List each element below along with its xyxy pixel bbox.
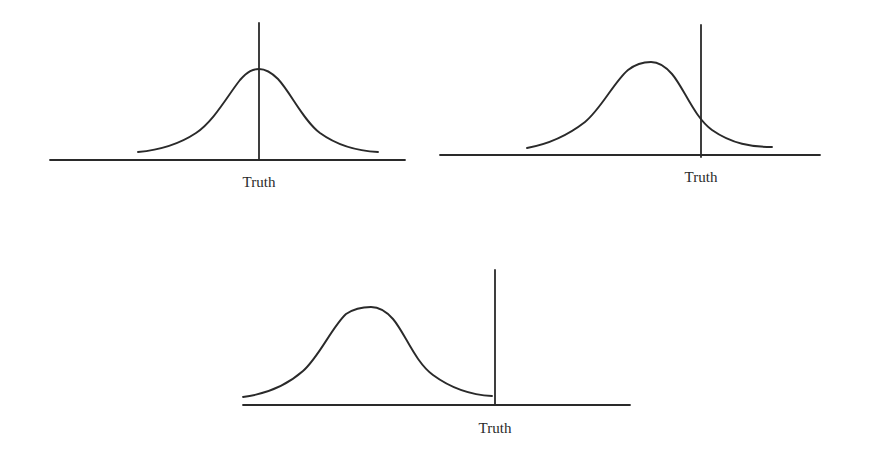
panel-slightly-biased: Truth: [440, 25, 820, 185]
distribution-curve-panel-2: [527, 62, 772, 148]
distribution-curve-panel-3: [243, 307, 492, 397]
truth-label-panel-1: Truth: [243, 174, 276, 190]
panel-strongly-biased: Truth: [243, 270, 630, 436]
distribution-curve-panel-1: [138, 69, 378, 152]
figure-root: Truth Truth Truth: [0, 0, 872, 452]
panel-unbiased-centered: Truth: [50, 23, 405, 190]
distribution-figure: Truth Truth Truth: [0, 0, 872, 452]
truth-label-panel-2: Truth: [685, 169, 718, 185]
truth-label-panel-3: Truth: [479, 420, 512, 436]
